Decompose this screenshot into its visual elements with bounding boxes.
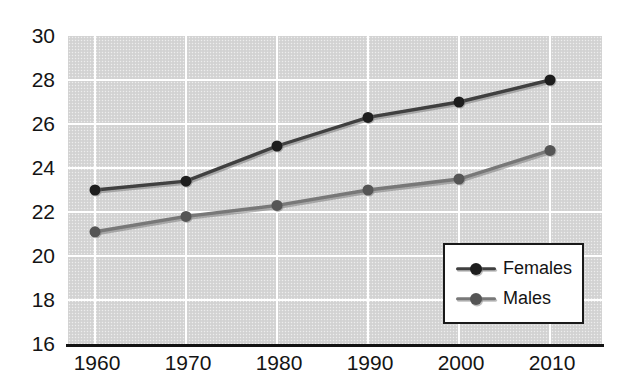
females-marker-icon [470, 263, 482, 275]
x-tick-label-2000: 2000 [438, 351, 485, 375]
marker-males-1960 [90, 226, 101, 237]
y-tick-label-16: 16 [32, 332, 55, 356]
marker-males-1970 [181, 211, 192, 222]
marker-females-2000 [454, 97, 465, 108]
chart-canvas [0, 0, 632, 391]
y-tick-label-22: 22 [32, 200, 55, 224]
legend-item-females: Females [456, 258, 582, 279]
marker-males-2000 [454, 174, 465, 185]
y-tick-label-20: 20 [32, 244, 55, 268]
males-line-swatch [456, 292, 496, 306]
marker-females-1970 [181, 176, 192, 187]
y-tick-label-26: 26 [32, 112, 55, 136]
legend: Females Males [443, 243, 584, 324]
legend-item-males: Males [456, 288, 582, 309]
males-marker-icon [470, 293, 482, 305]
marker-males-1990 [363, 185, 374, 196]
x-tick-label-1980: 1980 [256, 351, 303, 375]
x-tick-label-2010: 2010 [529, 351, 576, 375]
legend-label-males: Males [503, 288, 551, 309]
y-tick-label-28: 28 [32, 68, 55, 92]
marker-males-1980 [272, 200, 283, 211]
x-tick-label-1970: 1970 [165, 351, 212, 375]
line-chart-figure: 1618202224262830 19601970198019902000201… [0, 0, 632, 391]
marker-females-1980 [272, 141, 283, 152]
x-tick-label-1960: 1960 [74, 351, 121, 375]
females-line-swatch [456, 262, 496, 276]
marker-males-2010 [545, 145, 556, 156]
marker-females-1990 [363, 112, 374, 123]
y-tick-label-30: 30 [32, 24, 55, 48]
legend-label-females: Females [503, 258, 572, 279]
x-tick-label-1990: 1990 [347, 351, 394, 375]
marker-females-1960 [90, 185, 101, 196]
y-axis-tick-labels: 1618202224262830 [0, 0, 55, 391]
series-line-males [95, 150, 550, 231]
y-tick-label-24: 24 [32, 156, 55, 180]
y-tick-label-18: 18 [32, 288, 55, 312]
marker-females-2010 [545, 75, 556, 86]
